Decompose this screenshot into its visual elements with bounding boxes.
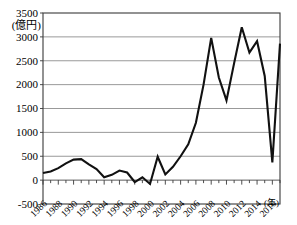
y-tick-label: 1500 bbox=[16, 102, 39, 114]
y-tick-label: 500 bbox=[22, 150, 39, 162]
chart-container: 3500300025002000150010005000-500 1986198… bbox=[0, 0, 297, 225]
y-tick-label: 2500 bbox=[16, 55, 39, 67]
y-tick-label: 3500 bbox=[16, 7, 39, 19]
y-tick-label: 2000 bbox=[16, 78, 39, 90]
y-axis-unit-label: (億円) bbox=[12, 19, 42, 32]
chart-background bbox=[0, 0, 297, 225]
y-tick-label: 3000 bbox=[16, 31, 39, 43]
x-axis-unit-label: (年) bbox=[264, 197, 279, 208]
line-chart: 3500300025002000150010005000-500 1986198… bbox=[0, 0, 297, 225]
y-tick-label: 0 bbox=[33, 174, 39, 186]
y-tick-label: 1000 bbox=[16, 126, 39, 138]
